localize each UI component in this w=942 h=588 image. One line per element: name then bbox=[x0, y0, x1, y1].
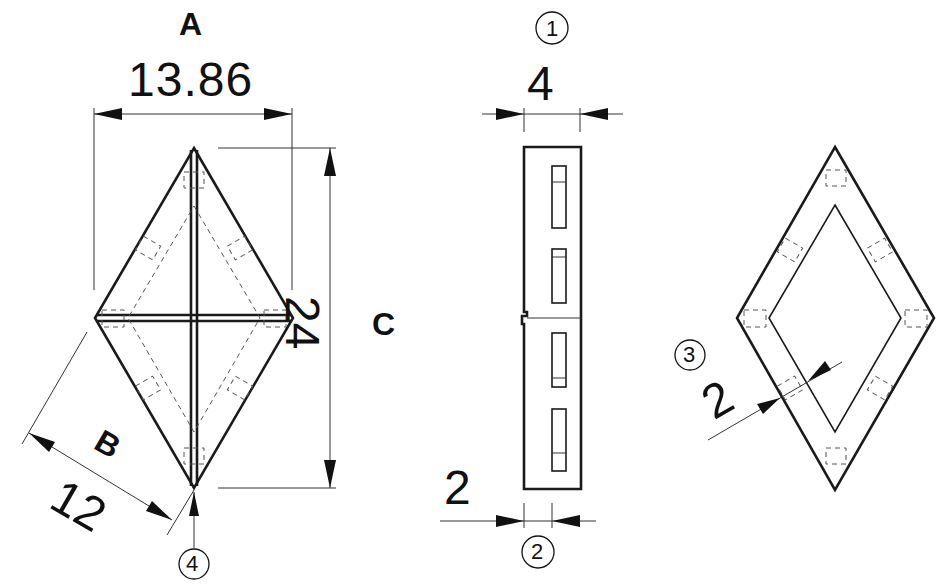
label-C: C bbox=[372, 306, 395, 343]
dimension-width-A: 13.86 bbox=[128, 52, 253, 107]
dimension-thickness-1: 4 bbox=[527, 56, 554, 111]
frame-view bbox=[675, 147, 934, 490]
label-A: A bbox=[179, 6, 202, 43]
dimension-height-C: 24 bbox=[275, 296, 330, 349]
technical-drawing: A 13.86 24 C B 12 4 1 4 2 2 3 2 bbox=[0, 0, 942, 588]
callout-3: 3 bbox=[683, 342, 695, 368]
callout-4: 4 bbox=[186, 551, 198, 577]
callout-1: 1 bbox=[546, 16, 558, 42]
callout-2: 2 bbox=[531, 539, 543, 565]
dimension-slot-2: 2 bbox=[444, 460, 471, 515]
